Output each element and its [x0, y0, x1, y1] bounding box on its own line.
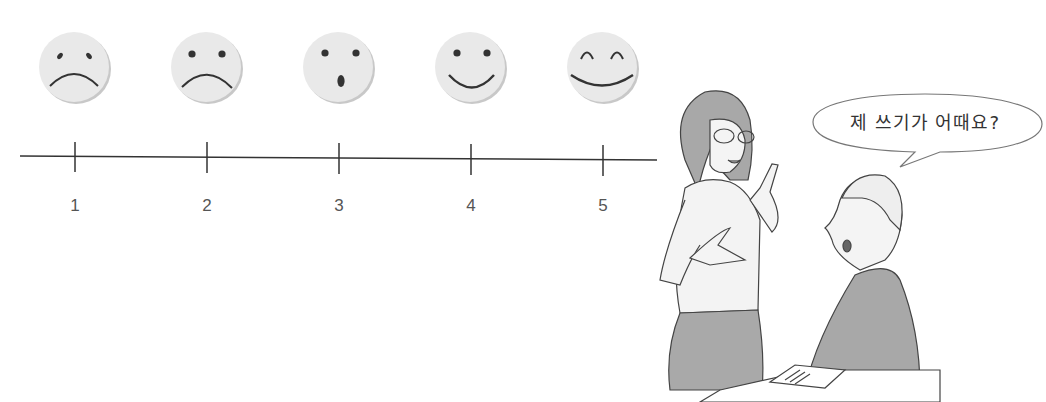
scale-number-1: 1 — [60, 196, 90, 216]
scale-number-3: 3 — [324, 196, 354, 216]
speech-bubble-text: 제 쓰기가 어때요? — [810, 108, 1040, 134]
scale-number-2: 2 — [192, 196, 222, 216]
speech-bubble: 제 쓰기가 어때요? — [810, 92, 1040, 154]
sad-face-icon — [170, 32, 244, 104]
very-sad-face-icon — [38, 32, 112, 104]
teacher-figure — [660, 91, 778, 390]
surprised-face-icon — [302, 32, 376, 104]
happy-face-icon — [434, 32, 508, 104]
scale-number-4: 4 — [456, 196, 486, 216]
